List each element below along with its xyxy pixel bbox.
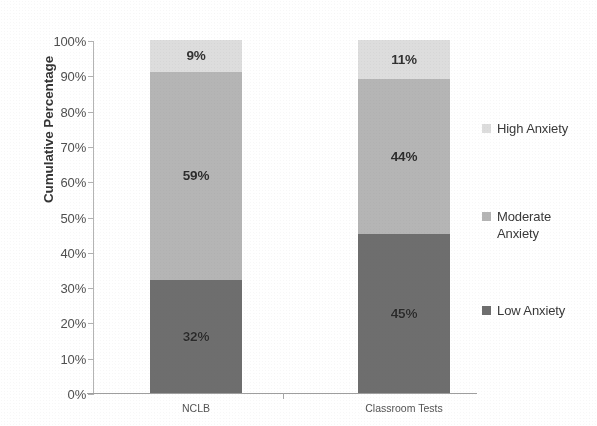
- bar-segment-high[interactable]: 9%: [150, 40, 242, 72]
- y-tick-mark: [88, 218, 94, 219]
- legend-item-moderate-anxiety[interactable]: Moderate Anxiety: [482, 208, 551, 242]
- legend-swatch-icon: [482, 306, 491, 315]
- y-tick-label: 40%: [30, 245, 86, 260]
- y-tick-label: 60%: [30, 175, 86, 190]
- y-tick-mark: [88, 112, 94, 113]
- y-tick-mark: [88, 394, 94, 395]
- y-tick-mark: [88, 323, 94, 324]
- legend-label: Moderate Anxiety: [497, 208, 551, 242]
- legend-label: High Anxiety: [497, 120, 568, 137]
- y-tick-mark: [88, 253, 94, 254]
- y-tick-mark: [88, 359, 94, 360]
- y-tick-label: 80%: [30, 104, 86, 119]
- legend-label: Low Anxiety: [497, 302, 565, 319]
- segment-value-label: 9%: [186, 48, 205, 63]
- legend-swatch-icon: [482, 212, 491, 221]
- y-tick-mark: [88, 182, 94, 183]
- y-tick-label: 100%: [30, 34, 86, 49]
- segment-value-label: 11%: [391, 52, 417, 67]
- y-tick-label: 0%: [30, 387, 86, 402]
- x-axis-category-label: Classroom Tests: [324, 402, 484, 414]
- bar-segment-low[interactable]: 32%: [150, 280, 242, 393]
- y-tick-label: 30%: [30, 281, 86, 296]
- bar-segment-low[interactable]: 45%: [358, 234, 450, 393]
- stacked-bar-chart: Cumulative Percentage 100%90%80%70%60%50…: [0, 0, 597, 426]
- bar-segment-mod[interactable]: 59%: [150, 72, 242, 280]
- x-tick-mark: [283, 393, 284, 399]
- segment-value-label: 45%: [391, 306, 417, 321]
- y-tick-label: 90%: [30, 69, 86, 84]
- y-axis-tick-labels: 100%90%80%70%60%50%40%30%20%10%0%: [28, 0, 86, 426]
- bar-nclb[interactable]: 9%59%32%: [150, 40, 242, 393]
- plot-area: 9%59%32%11%44%45%: [93, 41, 477, 394]
- legend-swatch-icon: [482, 124, 491, 133]
- legend-item-low-anxiety[interactable]: Low Anxiety: [482, 302, 565, 319]
- segment-value-label: 32%: [183, 329, 209, 344]
- y-tick-label: 20%: [30, 316, 86, 331]
- segment-value-label: 59%: [183, 168, 209, 183]
- x-axis-line: [87, 393, 477, 394]
- bar-segment-mod[interactable]: 44%: [358, 79, 450, 234]
- bar-segment-high[interactable]: 11%: [358, 40, 450, 79]
- y-tick-label: 70%: [30, 139, 86, 154]
- legend-item-high-anxiety[interactable]: High Anxiety: [482, 120, 568, 137]
- bar-classroom-tests[interactable]: 11%44%45%: [358, 40, 450, 393]
- y-tick-mark: [88, 76, 94, 77]
- x-axis-category-label: NCLB: [116, 402, 276, 414]
- y-tick-mark: [88, 147, 94, 148]
- y-tick-label: 50%: [30, 210, 86, 225]
- y-tick-mark: [88, 288, 94, 289]
- y-tick-label: 10%: [30, 351, 86, 366]
- segment-value-label: 44%: [391, 149, 417, 164]
- y-tick-mark: [88, 41, 94, 42]
